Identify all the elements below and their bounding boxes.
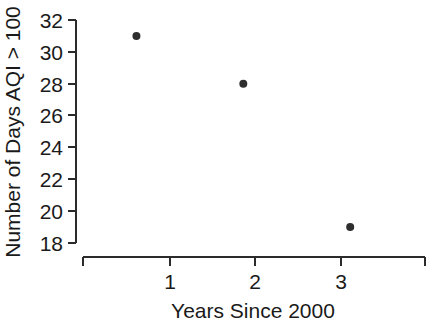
y-tick-label-26: 26 (40, 104, 63, 127)
y-tick-label-30: 30 (40, 41, 63, 64)
data-point (239, 80, 247, 88)
x-axis-title: Years Since 2000 (171, 299, 335, 322)
scatter-plot-figure: 32 30 28 26 24 22 20 18 Number of Days A… (0, 0, 436, 327)
y-tick-label-28: 28 (40, 73, 63, 96)
y-tick-label-22: 22 (40, 168, 63, 191)
x-tick-label-3: 3 (335, 270, 347, 293)
data-point (346, 223, 354, 231)
x-tick-label-2: 2 (249, 270, 261, 293)
y-tick-label-18: 18 (40, 232, 63, 255)
data-point (132, 32, 140, 40)
y-axis-title: Number of Days AQI > 100 (1, 6, 24, 258)
y-tick-label-24: 24 (40, 136, 64, 159)
y-tick-label-32: 32 (40, 9, 63, 32)
x-tick-label-1: 1 (164, 270, 176, 293)
plot-canvas: 32 30 28 26 24 22 20 18 Number of Days A… (0, 0, 436, 327)
y-tick-label-20: 20 (40, 200, 63, 223)
